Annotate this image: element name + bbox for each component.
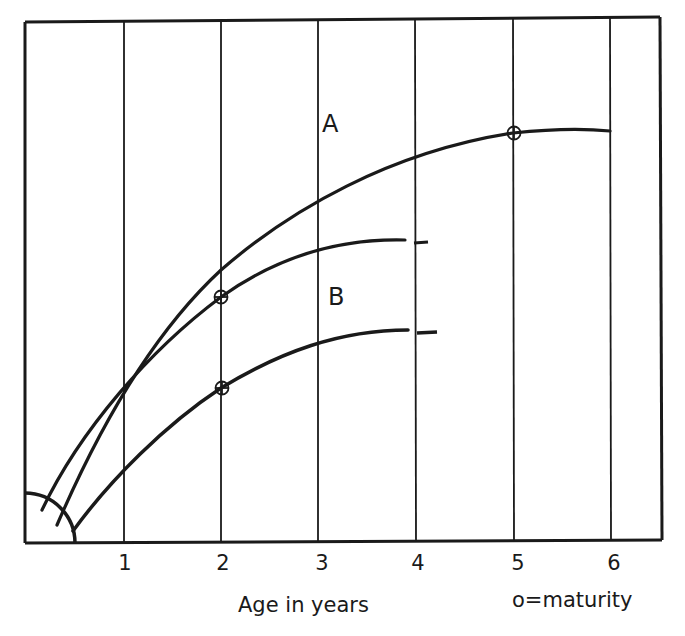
curve-b-upper [42,240,405,510]
x-tick-3: 3 [315,551,328,575]
curve-a-label: A [322,110,339,138]
chart-frame [25,17,662,543]
vertical-gridlines [124,17,611,543]
maturity-marker-a [507,126,521,140]
curve-b-label: B [328,283,344,311]
legend-maturity: o=maturity [512,588,632,612]
curve-b-lower-dash [417,332,437,333]
maturity-marker-b-upper [214,290,228,304]
x-tick-labels: 1 2 3 4 5 6 [118,551,620,575]
growth-chart: A B 1 2 3 4 5 6 Age in years o=maturity [0,0,685,636]
maturity-marker-b-lower [215,381,229,395]
x-axis-title: Age in years [238,593,369,617]
curve-a [57,129,610,525]
x-tick-2: 2 [216,551,229,575]
x-tick-6: 6 [607,551,620,575]
curve-b-upper-dash [414,242,428,243]
x-tick-1: 1 [118,551,131,575]
x-tick-5: 5 [511,551,524,575]
maturity-markers [214,126,521,395]
x-tick-4: 4 [411,551,424,575]
